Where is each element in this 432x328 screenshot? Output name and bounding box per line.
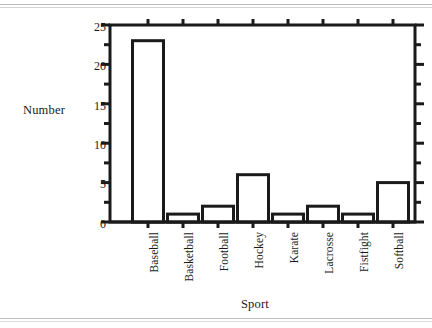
bar-lacrosse [308,206,339,222]
bar-hockey [238,175,269,222]
bar-football [203,206,234,222]
bar-series [133,41,409,222]
bar-chart-figure: Number Sport 0 5 10 15 20 25 Baseball Ba… [0,0,432,328]
plot-area [0,0,432,328]
bar-softball [378,183,409,222]
bar-baseball [133,41,164,222]
